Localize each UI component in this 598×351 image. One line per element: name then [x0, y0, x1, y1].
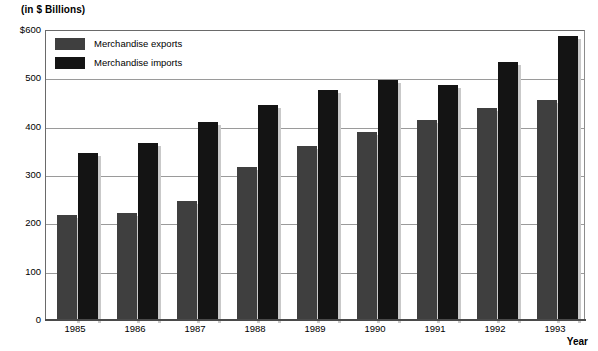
bar-exports-1992 [477, 108, 497, 320]
bar-imports-1990 [378, 80, 398, 320]
legend-swatch-imports-icon [55, 57, 85, 69]
bar-body [417, 120, 437, 320]
y-tick-label: 400 [1, 122, 41, 132]
y-tick-label: 100 [1, 267, 41, 277]
bar-body [318, 90, 338, 320]
y-tick-label: 0 [1, 315, 41, 325]
bar-chart: (in $ Billions) $6005004003002001000 Mer… [0, 0, 598, 351]
bar-exports-1985 [57, 215, 77, 320]
y-tick-label: $600 [1, 25, 41, 35]
bar-body [537, 100, 557, 320]
chart-legend: Merchandise exports Merchandise imports [55, 34, 220, 72]
bar-exports-1986 [117, 213, 137, 320]
bar-shadow [98, 156, 101, 323]
bar-shadow [158, 146, 161, 323]
bar-exports-1991 [417, 120, 437, 320]
x-tick-label-1989: 1989 [285, 323, 345, 334]
bar-shadow [218, 125, 221, 323]
x-tick-label-1990: 1990 [345, 323, 405, 334]
bar-body [477, 108, 497, 320]
bar-shadow [458, 88, 461, 323]
bar-body [357, 132, 377, 320]
bar-body [237, 167, 257, 320]
bar-group-1989 [297, 31, 341, 320]
bar-shadow [278, 108, 281, 323]
x-axis-tick-labels: 198519861987198819891990199119921993 [45, 323, 585, 337]
bar-group-1992 [477, 31, 521, 320]
bar-group-1990 [357, 31, 401, 320]
bar-group-1991 [417, 31, 461, 320]
bar-imports-1991 [438, 85, 458, 320]
bar-shadow [518, 65, 521, 323]
bar-body [378, 80, 398, 320]
bar-body [57, 215, 77, 320]
y-axis-title: (in $ Billions) [21, 4, 85, 15]
bar-body [177, 201, 197, 320]
bar-body [258, 105, 278, 320]
bar-shadow [578, 39, 581, 323]
legend-item-imports: Merchandise imports [55, 53, 220, 72]
bar-imports-1987 [198, 122, 218, 320]
x-tick-label-1993: 1993 [525, 323, 585, 334]
bar-imports-1993 [558, 36, 578, 320]
bar-exports-1988 [237, 167, 257, 320]
bar-body [438, 85, 458, 320]
bar-group-1986 [117, 31, 161, 320]
x-tick-label-1987: 1987 [165, 323, 225, 334]
bar-group-1988 [237, 31, 281, 320]
x-axis-baseline [45, 319, 586, 321]
bar-group-1987 [177, 31, 221, 320]
legend-label-exports: Merchandise exports [94, 38, 182, 49]
bar-body [498, 62, 518, 320]
bar-body [198, 122, 218, 320]
y-tick-label: 500 [1, 73, 41, 83]
bar-group-1985 [57, 31, 101, 320]
bar-imports-1989 [318, 90, 338, 320]
bar-body [297, 146, 317, 320]
bar-body [78, 153, 98, 320]
bar-body [558, 36, 578, 320]
x-tick-label-1985: 1985 [45, 323, 105, 334]
y-tick-label: 200 [1, 218, 41, 228]
x-axis-title: Year [567, 336, 588, 347]
bar-shadow [338, 93, 341, 323]
bar-imports-1992 [498, 62, 518, 320]
plot-area [45, 30, 585, 320]
bar-group-1993 [537, 31, 581, 320]
bar-imports-1985 [78, 153, 98, 320]
legend-label-imports: Merchandise imports [94, 57, 182, 68]
plot-inner [46, 31, 584, 320]
bar-exports-1993 [537, 100, 557, 320]
bar-exports-1987 [177, 201, 197, 320]
y-axis-tick-labels: $6005004003002001000 [0, 30, 41, 320]
x-tick-label-1986: 1986 [105, 323, 165, 334]
bar-body [138, 143, 158, 320]
bar-exports-1989 [297, 146, 317, 320]
legend-swatch-exports-icon [55, 38, 85, 50]
bar-shadow [398, 83, 401, 323]
bar-exports-1990 [357, 132, 377, 320]
bar-body [117, 213, 137, 320]
legend-item-exports: Merchandise exports [55, 34, 220, 53]
y-tick-label: 300 [1, 170, 41, 180]
bar-imports-1988 [258, 105, 278, 320]
x-tick-label-1992: 1992 [465, 323, 525, 334]
x-tick-label-1988: 1988 [225, 323, 285, 334]
bar-imports-1986 [138, 143, 158, 320]
x-tick-label-1991: 1991 [405, 323, 465, 334]
